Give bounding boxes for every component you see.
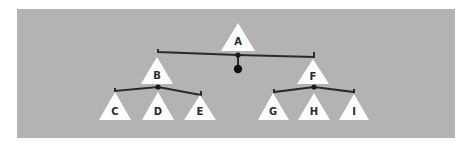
pivot-dot-b <box>155 84 160 89</box>
node-b: B <box>141 57 173 84</box>
pivot-dot-f <box>311 84 316 89</box>
node-label-i: I <box>352 106 356 117</box>
balance-bar-a <box>158 49 314 73</box>
node-label-f: F <box>310 71 317 82</box>
node-f: F <box>297 59 329 84</box>
node-label-g: G <box>269 106 277 117</box>
node-label-d: D <box>154 106 162 117</box>
node-label-c: C <box>111 106 118 117</box>
tree-diagram: A B F C D E G H I <box>0 0 475 147</box>
node-g: G <box>258 93 289 120</box>
node-label-a: A <box>234 36 242 47</box>
node-a: A <box>221 23 255 51</box>
pivot-dot-a <box>235 52 240 57</box>
node-label-b: B <box>153 70 161 81</box>
node-c: C <box>99 92 131 120</box>
node-d: D <box>142 92 174 120</box>
node-e: E <box>184 95 216 120</box>
counterweight-ball <box>234 65 242 73</box>
node-label-h: H <box>310 106 318 117</box>
node-label-e: E <box>197 106 204 117</box>
node-i: I <box>339 94 369 120</box>
node-h: H <box>298 93 330 120</box>
